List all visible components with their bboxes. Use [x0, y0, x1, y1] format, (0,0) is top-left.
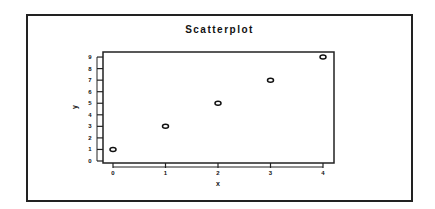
y-tick-label: 2 — [88, 135, 92, 141]
x-tick-label: 2 — [216, 170, 220, 176]
x-tick-label: 1 — [164, 170, 168, 176]
y-tick-label: 6 — [88, 89, 92, 95]
y-tick-label: 3 — [88, 123, 92, 129]
data-point-marker — [215, 101, 221, 105]
y-tick-label: 8 — [88, 66, 92, 72]
data-point-marker — [110, 147, 116, 151]
y-tick-label: 7 — [88, 77, 92, 83]
y-tick-label: 5 — [88, 100, 92, 106]
scatter-plot: 0123456789 01234 x y — [0, 0, 435, 209]
x-axis-label: x — [216, 180, 220, 187]
y-tick-label: 1 — [88, 146, 92, 152]
x-tick-label: 3 — [269, 170, 273, 176]
y-tick-label: 4 — [88, 112, 92, 118]
y-axis-label: y — [71, 105, 79, 109]
y-tick-label: 0 — [88, 158, 92, 164]
y-tick-label: 9 — [88, 54, 92, 60]
data-points — [110, 55, 326, 151]
y-axis: 0123456789 — [88, 54, 103, 164]
data-point-marker — [163, 124, 169, 128]
data-point-marker — [320, 55, 326, 59]
data-point-marker — [268, 78, 274, 82]
x-axis: 01234 — [111, 163, 325, 176]
plot-area — [103, 52, 334, 163]
x-tick-label: 0 — [111, 170, 115, 176]
x-tick-label: 4 — [321, 170, 325, 176]
